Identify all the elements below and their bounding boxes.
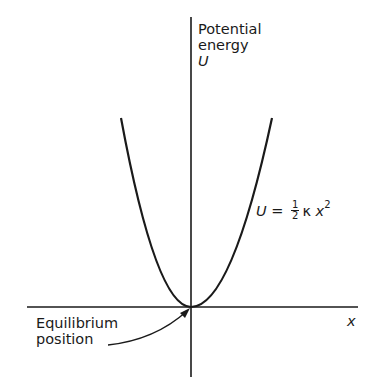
y-axis-label-line2: energy: [198, 37, 262, 53]
x-axis-label: x: [347, 313, 356, 329]
equation-lhs: U: [256, 203, 267, 219]
equation-exponent: 2: [324, 199, 330, 210]
equation-equals: =: [271, 203, 283, 219]
potential-curve-left: [121, 118, 191, 307]
y-axis-label: Potential energy U: [198, 21, 262, 69]
equilibrium-annotation: Equilibrium position: [36, 315, 118, 347]
equation-fraction: 1 2: [291, 200, 299, 221]
equilibrium-arrow: [108, 311, 187, 345]
annotation-line2: position: [36, 331, 118, 347]
equation-var: x: [316, 203, 325, 219]
y-axis-label-line1: Potential: [198, 21, 262, 37]
curve-equation: U = 1 2 κ x2: [256, 199, 331, 222]
annotation-line1: Equilibrium: [36, 315, 118, 331]
fraction-denominator: 2: [292, 211, 298, 221]
equation-kappa: κ: [302, 203, 311, 219]
y-axis-symbol: U: [198, 53, 262, 69]
